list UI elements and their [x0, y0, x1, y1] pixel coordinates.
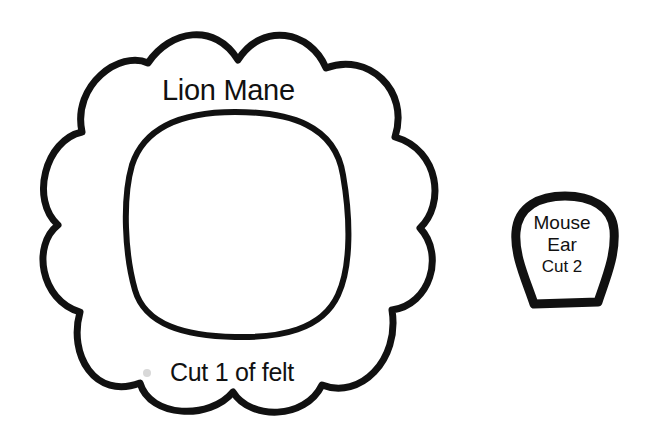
- mouse-ear-label: Mouse Ear Cut 2: [524, 212, 600, 278]
- scan-smudge: [143, 369, 151, 377]
- mouse-ear-label-line1: Mouse: [524, 212, 600, 234]
- mouse-ear-cut-instruction: Cut 2: [524, 256, 600, 278]
- mouse-ear-label-line2: Ear: [524, 234, 600, 256]
- lion-mane-inner-cutout: [126, 112, 349, 337]
- lion-mane-cut-instruction: Cut 1 of felt: [170, 360, 294, 385]
- lion-mane-title: Lion Mane: [162, 76, 295, 105]
